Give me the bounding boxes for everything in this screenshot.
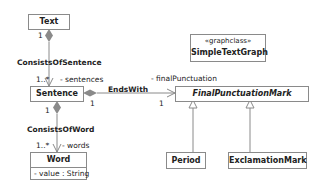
class-name: ExclamationMark [229, 153, 306, 168]
attribute-value: - value : String [31, 167, 86, 180]
association-name-consists-of-sentence: ConsistsOfSentence [17, 58, 102, 67]
stereotype: «graphclass» [191, 35, 265, 46]
class-exclamation-mark[interactable]: ExclamationMark [228, 152, 307, 169]
association-name-ends-with: EndsWith [108, 85, 148, 94]
class-simple-text-graph[interactable]: «graphclass» SimpleTextGraph [190, 34, 266, 62]
class-final-punctuation-mark[interactable]: FinalPunctuationMark [175, 86, 309, 102]
composition-diamond-sentence-punct [83, 90, 97, 97]
class-name: Text [29, 15, 69, 29]
role-sentences: - sentences [60, 75, 103, 84]
association-name-consists-of-word: ConsistsOfWord [27, 125, 94, 134]
multiplicity-sentences: 1..* [36, 75, 49, 84]
role-words: - words [62, 141, 89, 150]
class-text[interactable]: Text [28, 14, 70, 30]
composition-diamond-sentence-word [53, 101, 61, 114]
composition-diamond-text [45, 29, 53, 42]
class-name: Word [31, 153, 86, 167]
class-name: SimpleTextGraph [191, 46, 265, 59]
role-final-punctuation: - finalPunctuation [151, 74, 217, 83]
class-word[interactable]: Word - value : String [30, 152, 87, 180]
class-period[interactable]: Period [166, 152, 206, 169]
class-sentence[interactable]: Sentence [30, 86, 84, 102]
multiplicity-final-punctuation: 1 [159, 99, 164, 108]
class-name: Sentence [31, 87, 83, 101]
class-name: Period [167, 153, 205, 168]
multiplicity-ends-with-source: 1 [90, 99, 95, 108]
multiplicity-words: 1..* [36, 141, 49, 150]
multiplicity-sentence-source: 1 [45, 106, 50, 115]
class-name: FinalPunctuationMark [176, 87, 308, 101]
multiplicity-text-source: 1 [38, 31, 43, 40]
